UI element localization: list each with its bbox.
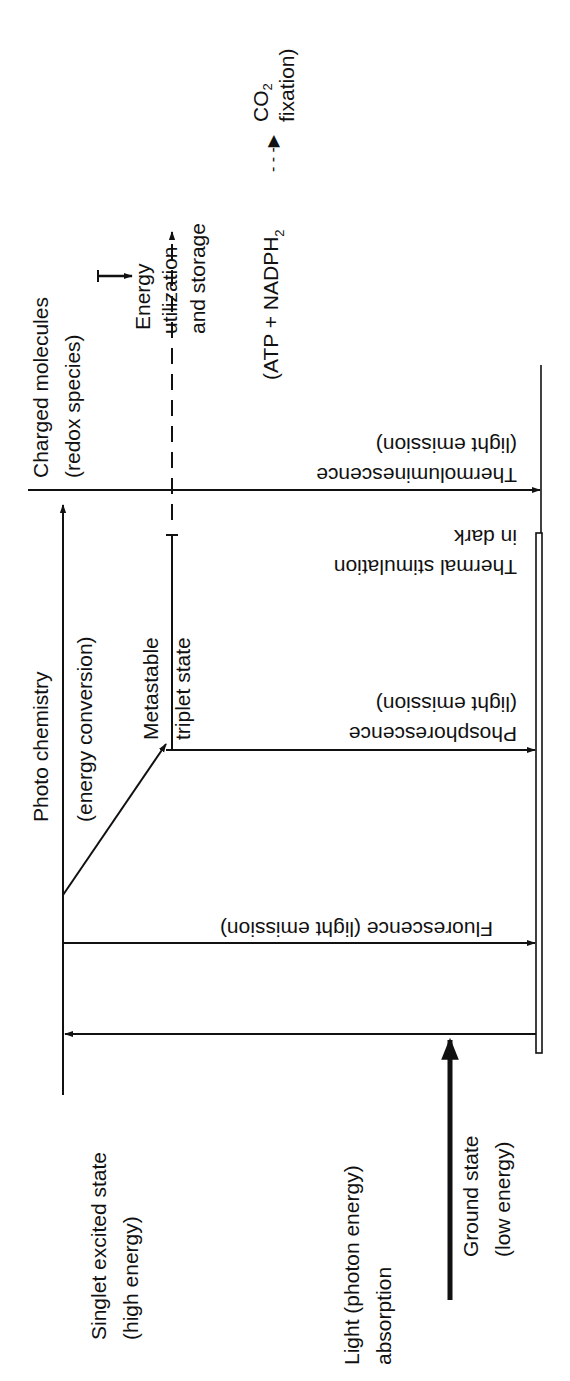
singlet-line2: (high energy) (119, 1216, 142, 1340)
energy-line2: utilization (158, 246, 181, 334)
triplet-state-label: Metastable triplet state (139, 637, 194, 740)
atp-nadph-label: (ATP + NADPH2 - - -▶ CO2 fixation) (249, 48, 298, 380)
thermoluminescence-line1: Thermoluminescence (316, 464, 517, 487)
dashed-arrow-icon: - - -▶ (264, 134, 281, 172)
energy-line3: and storage (186, 223, 209, 334)
charged-to-energy-arrow (98, 270, 132, 282)
phosphorescence-line2: (light emission) (376, 693, 517, 716)
thermal-line1: Thermal stimulation (334, 556, 517, 579)
thermal-stimulation-label: Thermal stimulation in dark (334, 526, 517, 579)
ground-line2: (low energy) (491, 1141, 514, 1257)
light-line1: Light (photon energy) (340, 1165, 363, 1365)
triplet-line1: Metastable (139, 637, 162, 740)
thermoluminescence-label: Thermoluminescence (light emission) (316, 434, 517, 487)
phosphorescence-line1: Phosphorescence (349, 723, 517, 746)
atp-nadph-text: (ATP + NADPH2 (259, 229, 287, 380)
triplet-line2: triplet state (171, 637, 194, 740)
thermal-line2: in dark (453, 526, 517, 549)
singlet-state-label: Singlet excited state (high energy) (87, 1152, 142, 1340)
photochemistry-line2: (energy conversion) (73, 636, 96, 822)
energy-level-diagram: Singlet excited state (high energy) Ligh… (0, 0, 570, 1381)
fixation-text: fixation) (275, 48, 298, 122)
singlet-line1: Singlet excited state (87, 1152, 110, 1340)
thermoluminescence-line2: (light emission) (376, 434, 517, 457)
charged-molecules-label: Charged molecules (redox species) (29, 297, 84, 478)
fluorescence-label: Fluorescence (light emission) (220, 918, 493, 941)
photochemistry-line1: Photo chemistry (29, 671, 52, 822)
fluorescence-line1: Fluorescence (light emission) (220, 918, 493, 941)
charged-line1: Charged molecules (29, 297, 52, 478)
light-line2: absorption (372, 1267, 395, 1365)
ground-line1: Ground state (459, 1136, 482, 1257)
light-absorption-label: Light (photon energy) absorption (340, 1165, 395, 1365)
ground-state-bar (536, 533, 542, 1053)
charged-line2: (redox species) (61, 334, 84, 478)
energy-line1: Energy (131, 263, 154, 330)
co2-text: CO2 (249, 83, 275, 122)
phosphorescence-label: Phosphorescence (light emission) (349, 693, 517, 746)
ground-state-label: Ground state (low energy) (459, 1136, 514, 1257)
energy-utilization-label: Energy utilization and storage (131, 223, 209, 334)
